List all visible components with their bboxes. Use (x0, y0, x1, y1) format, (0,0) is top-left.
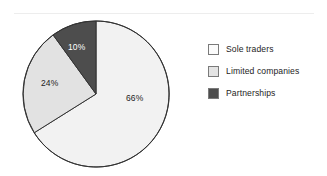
pie-plot-area: 66% 24% 10% (22, 20, 170, 168)
legend-item-label: Sole traders (226, 44, 274, 55)
pie-svg (22, 20, 170, 168)
pie-chart-figure: 66% 24% 10% Sole traders Limited compani… (0, 0, 327, 176)
legend: Sole traders Limited companies Partnersh… (208, 43, 320, 100)
top-divider (14, 13, 314, 14)
legend-item-sole-traders[interactable]: Sole traders (208, 43, 320, 56)
legend-swatch-icon (208, 44, 219, 55)
legend-swatch-icon (208, 66, 219, 77)
legend-item-label: Partnerships (226, 88, 275, 99)
pie-label-partnerships: 10% (68, 42, 85, 52)
legend-item-partnerships[interactable]: Partnerships (208, 87, 320, 100)
legend-item-label: Limited companies (226, 66, 299, 77)
legend-swatch-icon (208, 88, 219, 99)
legend-item-limited-companies[interactable]: Limited companies (208, 65, 320, 78)
pie-label-limited-companies: 24% (41, 78, 58, 88)
pie-label-sole-traders: 66% (126, 93, 143, 103)
